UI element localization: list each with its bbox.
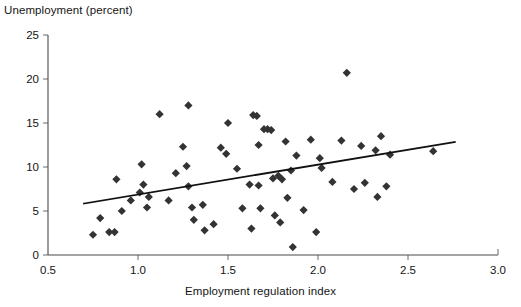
scatter-chart-figure: Unemployment (percent) 0510152025 0.51.0…	[0, 0, 521, 307]
data-point	[118, 207, 126, 215]
data-point	[283, 194, 291, 202]
data-point	[343, 69, 351, 77]
x-tick-label: 3.0	[490, 264, 506, 276]
y-tick-label: 10	[26, 161, 39, 173]
y-tick-label: 15	[26, 117, 39, 129]
data-point	[112, 175, 120, 183]
data-point	[89, 231, 97, 239]
data-point	[238, 204, 246, 212]
data-point	[276, 218, 284, 226]
data-point	[282, 137, 290, 145]
data-point	[201, 226, 209, 234]
data-point	[199, 201, 207, 209]
data-point	[382, 182, 390, 190]
data-point	[316, 154, 324, 162]
data-point	[183, 162, 191, 170]
data-point	[372, 146, 380, 154]
x-tick-label: 2.5	[400, 264, 416, 276]
data-point	[165, 196, 173, 204]
data-point	[188, 203, 196, 211]
data-point	[179, 143, 187, 151]
data-point	[217, 144, 225, 152]
data-point	[350, 185, 358, 193]
data-point	[307, 136, 315, 144]
data-point	[361, 179, 369, 187]
data-point	[300, 206, 308, 214]
trend-line	[84, 142, 455, 204]
data-point	[233, 165, 241, 173]
data-point	[111, 228, 119, 236]
data-point	[246, 181, 254, 189]
data-point	[139, 181, 147, 189]
x-tick-label: 1.0	[130, 264, 146, 276]
data-point	[190, 216, 198, 224]
data-point	[184, 101, 192, 109]
data-point	[328, 178, 336, 186]
data-point	[256, 204, 264, 212]
data-point	[271, 211, 279, 219]
data-point	[377, 132, 385, 140]
data-point	[337, 137, 345, 145]
data-point	[96, 214, 104, 222]
data-point	[222, 150, 230, 158]
data-point	[172, 169, 180, 177]
data-point	[247, 225, 255, 233]
y-tick-label: 0	[33, 249, 39, 261]
y-axis-ticks: 0510152025	[26, 29, 48, 261]
data-point	[255, 181, 263, 189]
data-point	[289, 243, 297, 251]
y-tick-label: 25	[26, 29, 39, 41]
data-point	[312, 228, 320, 236]
x-axis-ticks: 0.51.01.52.02.53.0	[40, 255, 506, 276]
y-tick-label: 5	[33, 205, 39, 217]
data-point	[224, 119, 232, 127]
data-point-group	[89, 69, 437, 251]
y-tick-label: 20	[26, 73, 39, 85]
data-point	[373, 193, 381, 201]
data-point	[156, 110, 164, 118]
x-tick-label: 2.0	[310, 264, 326, 276]
data-point	[429, 147, 437, 155]
data-point	[127, 196, 135, 204]
x-tick-label: 1.5	[220, 264, 236, 276]
data-point	[210, 220, 218, 228]
data-point	[292, 151, 300, 159]
data-point	[357, 142, 365, 150]
x-tick-label: 0.5	[40, 264, 56, 276]
plot-area: 0510152025 0.51.01.52.02.53.0	[0, 0, 521, 307]
x-axis-title: Employment regulation index	[0, 285, 521, 297]
data-point	[138, 160, 146, 168]
data-point	[143, 203, 151, 211]
data-point	[255, 141, 263, 149]
